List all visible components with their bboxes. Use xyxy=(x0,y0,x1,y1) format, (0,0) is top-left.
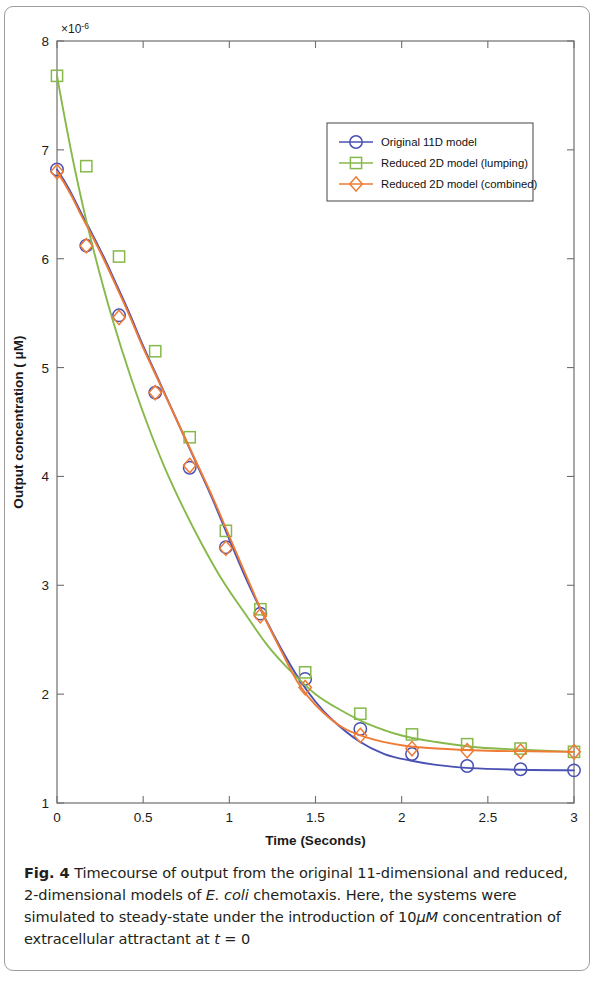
plot-area: 00.511.522.5312345678×10-6Time (Seconds)… xyxy=(5,7,591,853)
series-line xyxy=(57,172,574,752)
data-marker xyxy=(81,161,92,172)
series-line xyxy=(57,169,574,770)
caption-part-4: = 0 xyxy=(220,930,250,947)
y-tick-label: 8 xyxy=(41,34,49,49)
data-marker xyxy=(150,346,161,357)
x-tick-label: 0.5 xyxy=(134,810,153,825)
legend-box[interactable]: Original 11D modelReduced 2D model (lump… xyxy=(327,123,538,201)
y-tick-label: 4 xyxy=(41,469,49,484)
y-tick-label: 6 xyxy=(41,252,49,267)
x-tick-label: 2 xyxy=(398,810,406,825)
y-tick-label: 5 xyxy=(41,361,49,376)
x-axis-title: Time (Seconds) xyxy=(265,833,365,848)
legend-entry[interactable]: Original 11D model xyxy=(339,136,477,148)
figure-card: 00.511.522.5312345678×10-6Time (Seconds)… xyxy=(4,6,590,971)
legend-label: Original 11D model xyxy=(381,136,477,148)
data-marker xyxy=(461,760,473,772)
x-tick-label: 2.5 xyxy=(478,810,497,825)
x-tick-label: 1 xyxy=(226,810,234,825)
series-circle xyxy=(51,163,580,776)
data-marker xyxy=(406,741,418,755)
caption-italic-ecoli: E. coli xyxy=(206,886,249,903)
legend-label: Reduced 2D model (combined) xyxy=(381,178,538,190)
data-marker xyxy=(113,310,125,324)
x-tick-label: 0 xyxy=(53,810,61,825)
x-tick-label: 3 xyxy=(570,810,578,825)
legend-label: Reduced 2D model (lumping) xyxy=(381,157,528,169)
y-axis-title: Output concentration ( μM) xyxy=(11,335,26,508)
y-tick-label: 3 xyxy=(41,578,49,593)
x-tick-label: 1.5 xyxy=(306,810,325,825)
chart-canvas: 00.511.522.5312345678×10-6Time (Seconds)… xyxy=(5,7,591,853)
y-axis-exponent: ×10-6 xyxy=(61,21,89,36)
y-tick-label: 2 xyxy=(41,687,49,702)
figure-label: Fig. 4 xyxy=(24,864,70,881)
data-marker xyxy=(113,251,124,262)
y-tick-label: 7 xyxy=(41,143,49,158)
figure-caption: Fig. 4 Timecourse of output from the ori… xyxy=(24,862,576,950)
data-marker xyxy=(299,673,311,685)
series-diamond xyxy=(51,164,580,759)
y-tick-label: 1 xyxy=(41,796,49,811)
data-marker xyxy=(149,386,161,398)
caption-italic-um: μM xyxy=(416,908,438,925)
